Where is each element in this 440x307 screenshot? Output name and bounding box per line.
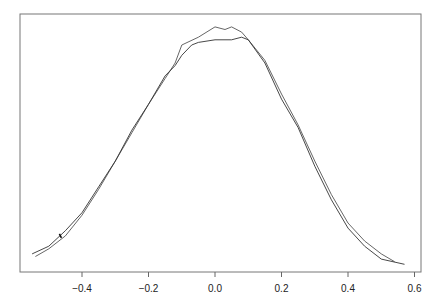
series-line-curve-2	[32, 37, 404, 264]
x-axis-ticks: −0.4−0.20.00.20.40.6	[72, 272, 422, 294]
x-tick-label: −0.2	[139, 283, 159, 294]
x-tick-label: −0.4	[72, 283, 92, 294]
x-tick-label: 0.6	[408, 283, 422, 294]
x-tick-label: 0.4	[341, 283, 355, 294]
x-tick-label: 0.2	[275, 283, 289, 294]
line-chart: −0.4−0.20.00.20.40.6	[0, 0, 440, 307]
series-line-curve-1	[35, 27, 394, 262]
series-group	[32, 27, 404, 264]
x-tick-label: 0.0	[208, 283, 222, 294]
plot-frame	[20, 14, 421, 272]
